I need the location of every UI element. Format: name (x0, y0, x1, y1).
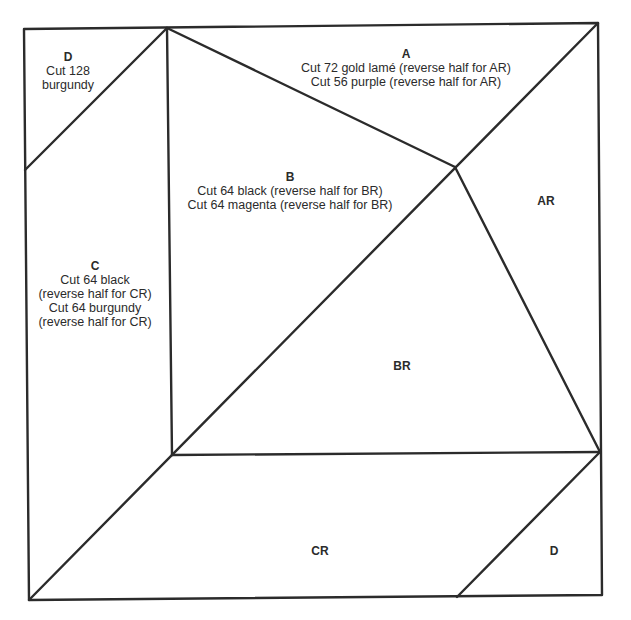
cut-instruction: (reverse half for CR) (38, 315, 151, 329)
piece-label-cr: CR (311, 544, 328, 558)
piece-label-d-top: D Cut 128 burgundy (42, 50, 94, 92)
cut-instruction: Cut 128 (42, 64, 94, 78)
piece-label-br: BR (393, 359, 410, 373)
piece-label-ar: AR (537, 194, 554, 208)
cut-instruction: Cut 64 magenta (reverse half for BR) (188, 198, 393, 212)
piece-label-d-bottom: D (550, 544, 559, 558)
piece-key: BR (393, 359, 410, 373)
piece-label-b: B Cut 64 black (reverse half for BR) Cut… (188, 170, 393, 212)
cut-instruction: Cut 64 black (38, 273, 151, 287)
seam-br-cr (172, 452, 600, 455)
cut-instruction: burgundy (42, 78, 94, 92)
piece-key: D (550, 544, 559, 558)
cut-instruction: Cut 56 purple (reverse half for AR) (301, 75, 511, 89)
seam-ar-br (455, 167, 600, 452)
cut-instruction: Cut 64 burgundy (38, 301, 151, 315)
piece-label-a: A Cut 72 gold lamé (reverse half for AR)… (301, 47, 511, 89)
piece-key: D (42, 50, 94, 64)
piece-key: A (301, 47, 511, 61)
piece-label-c: C Cut 64 black (reverse half for CR) Cut… (38, 259, 151, 329)
piece-key: CR (311, 544, 328, 558)
cut-instruction: (reverse half for CR) (38, 287, 151, 301)
piece-key: AR (537, 194, 554, 208)
piece-key: C (38, 259, 151, 273)
seam-c-b (167, 28, 172, 455)
cut-instruction: Cut 64 black (reverse half for BR) (188, 184, 393, 198)
seam-d-bottom (457, 452, 600, 597)
piece-key: B (188, 170, 393, 184)
cut-instruction: Cut 72 gold lamé (reverse half for AR) (301, 61, 511, 75)
